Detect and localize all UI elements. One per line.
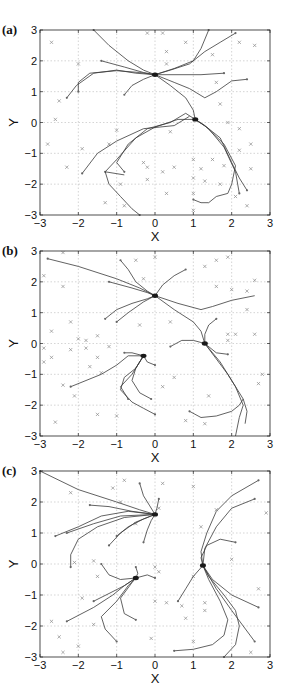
start-dot-icon: [154, 577, 156, 579]
start-dot-icon: [116, 321, 118, 323]
y-tick-label: −2: [24, 178, 37, 190]
figure: −3−2−101233210−1−2−3XY(a) −3−2−101233210…: [0, 0, 286, 700]
start-dot-icon: [173, 650, 175, 652]
start-dot-icon: [123, 171, 125, 173]
start-dot-icon: [234, 541, 236, 543]
x-tick-label: −2: [72, 659, 85, 671]
y-tick-label: 1: [31, 86, 37, 98]
start-dot-icon: [154, 413, 156, 415]
start-dot-icon: [70, 386, 72, 388]
y-axis-label: Y: [6, 118, 21, 127]
start-dot-icon: [47, 258, 49, 260]
start-dot-icon: [127, 398, 129, 400]
x-tick-label: −1: [110, 217, 123, 229]
cluster-blob-icon: [200, 563, 206, 567]
y-axis-label: Y: [6, 559, 21, 568]
x-tick-label: 0: [152, 659, 158, 671]
start-dot-icon: [185, 268, 187, 270]
cluster-blob-icon: [152, 512, 158, 516]
start-dot-icon: [54, 535, 56, 537]
y-tick-label: 0: [31, 117, 37, 129]
panel-label: (a): [2, 22, 17, 37]
start-dot-icon: [81, 172, 83, 174]
start-dot-icon: [100, 563, 102, 565]
x-tick-label: 1: [190, 217, 196, 229]
x-tick-label: 2: [229, 217, 235, 229]
y-axis-label: Y: [6, 339, 21, 348]
cluster-blob-icon: [202, 341, 208, 345]
y-tick-label: 0: [31, 558, 37, 570]
start-dot-icon: [192, 198, 194, 200]
start-dot-icon: [223, 72, 225, 74]
cluster-blob-icon: [152, 73, 158, 77]
start-dot-icon: [135, 566, 137, 568]
start-dot-icon: [66, 620, 68, 622]
panel-b: −3−2−101233210−1−2−3XY(b): [2, 243, 273, 465]
start-dot-icon: [66, 97, 68, 99]
x-tick-label: 2: [229, 659, 235, 671]
start-dot-icon: [116, 535, 118, 537]
cluster-blob-icon: [152, 294, 158, 298]
x-tick-label: 3: [267, 659, 273, 671]
x-tick-label: −2: [72, 438, 85, 450]
start-dot-icon: [104, 318, 106, 320]
start-dot-icon: [215, 318, 217, 320]
y-tick-label: −1: [24, 147, 37, 159]
x-tick-label: 1: [190, 438, 196, 450]
start-dot-icon: [254, 498, 256, 500]
y-tick-label: 1: [31, 527, 37, 539]
start-dot-icon: [227, 353, 229, 355]
start-dot-icon: [154, 364, 156, 366]
y-tick-label: 3: [31, 24, 37, 36]
cluster-blob-icon: [133, 576, 139, 580]
x-axis-label: X: [151, 671, 160, 686]
start-dot-icon: [116, 640, 118, 642]
start-dot-icon: [246, 78, 248, 80]
start-dot-icon: [108, 544, 110, 546]
x-axis-label: X: [151, 450, 160, 465]
start-dot-icon: [123, 94, 125, 96]
start-dot-icon: [257, 606, 259, 608]
start-dot-icon: [93, 600, 95, 602]
cluster-blob-icon: [141, 354, 147, 358]
x-tick-label: −2: [72, 217, 85, 229]
start-dot-icon: [135, 619, 137, 621]
y-tick-label: −2: [24, 620, 37, 632]
y-tick-label: 2: [31, 55, 37, 67]
start-dot-icon: [254, 640, 256, 642]
panel-label: (b): [2, 243, 18, 258]
y-tick-label: 0: [31, 338, 37, 350]
x-tick-label: 3: [267, 438, 273, 450]
y-tick-label: 3: [31, 465, 37, 477]
start-dot-icon: [188, 410, 190, 412]
x-tick-label: 3: [267, 217, 273, 229]
y-tick-label: 3: [31, 245, 37, 257]
y-tick-label: −3: [24, 651, 37, 663]
x-axis-label: X: [151, 229, 160, 244]
start-dot-icon: [150, 398, 152, 400]
panel-label: (c): [2, 463, 16, 478]
y-tick-label: 2: [31, 496, 37, 508]
start-dot-icon: [246, 189, 248, 191]
start-dot-icon: [89, 504, 91, 506]
start-dot-icon: [238, 192, 240, 194]
y-tick-label: 1: [31, 307, 37, 319]
start-dot-icon: [257, 479, 259, 481]
start-dot-icon: [77, 91, 79, 93]
start-dot-icon: [169, 345, 171, 347]
y-tick-label: −3: [24, 209, 37, 221]
y-tick-label: −3: [24, 430, 37, 442]
x-tick-label: −1: [110, 659, 123, 671]
start-dot-icon: [70, 566, 72, 568]
start-dot-icon: [177, 600, 179, 602]
start-dot-icon: [119, 259, 121, 261]
x-tick-label: 0: [152, 438, 158, 450]
x-tick-label: −1: [110, 438, 123, 450]
x-tick-label: 0: [152, 217, 158, 229]
start-dot-icon: [100, 60, 102, 62]
panel-c: −3−2−101233210−1−2−3XY(c): [2, 463, 273, 686]
y-tick-label: −1: [24, 589, 37, 601]
start-dot-icon: [234, 32, 236, 34]
start-dot-icon: [139, 482, 141, 484]
start-dot-icon: [142, 541, 144, 543]
